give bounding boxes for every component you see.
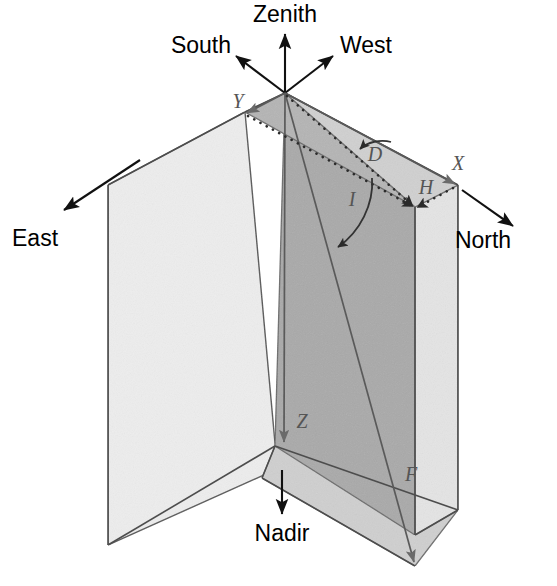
label-f-total-field: F bbox=[404, 463, 418, 485]
label-h-component: H bbox=[418, 176, 435, 198]
label-nadir: Nadir bbox=[255, 520, 310, 546]
label-z-axis: Z bbox=[296, 410, 308, 432]
diagram-canvas: Zenith South West East North Nadir X Y Z… bbox=[0, 0, 557, 586]
z-axis-vector bbox=[284, 93, 285, 442]
south-vector bbox=[236, 56, 285, 93]
north-vector bbox=[462, 190, 513, 226]
west-vector bbox=[285, 56, 333, 93]
plane-right-vertical bbox=[415, 185, 458, 535]
label-east: East bbox=[12, 225, 59, 251]
label-inclination: I bbox=[348, 188, 357, 210]
plane-left-vertical bbox=[108, 112, 275, 545]
label-x-axis: X bbox=[451, 152, 465, 174]
label-north: North bbox=[455, 227, 511, 253]
label-south: South bbox=[171, 32, 231, 58]
label-zenith: Zenith bbox=[253, 1, 317, 27]
label-declination: D bbox=[367, 143, 383, 165]
label-y-axis: Y bbox=[232, 90, 245, 112]
geomagnetic-field-diagram: Zenith South West East North Nadir X Y Z… bbox=[0, 0, 557, 586]
label-west: West bbox=[340, 32, 393, 58]
